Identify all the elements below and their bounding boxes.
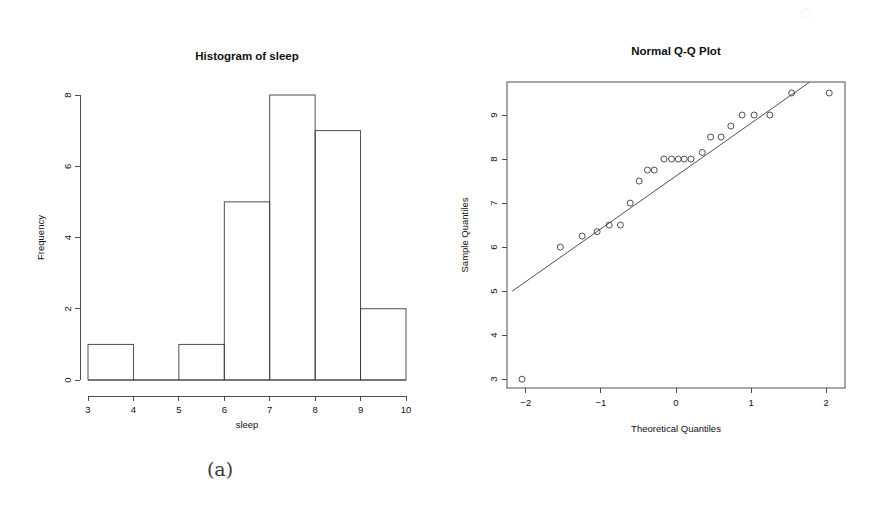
- histogram-bar-rect-4: [270, 95, 315, 380]
- qqplot-y-tick-label-4: 7: [489, 200, 500, 205]
- qqplot-y-tick-label-5: 8: [489, 156, 500, 161]
- panel-qqplot: Normal Q-Q Plot3456789−2−1012Theoretical…: [444, 0, 888, 508]
- panel-histogram: Histogram of sleep02468345678910sleepFre…: [0, 0, 444, 508]
- histogram-x-tick-label-7: 10: [401, 404, 412, 415]
- qqplot-y-tick-label-3: 6: [489, 244, 500, 249]
- qqplot-box: [507, 82, 845, 388]
- histogram-y-tick-label-3: 6: [62, 164, 73, 169]
- histogram-x-tick-label-2: 5: [176, 404, 181, 415]
- histogram-bar-rect-6: [361, 309, 406, 380]
- histogram-x-tick-label-3: 6: [222, 404, 227, 415]
- qqplot-y-tick-label-2: 5: [489, 288, 500, 293]
- qqplot-x-tick-label-4: 2: [824, 397, 829, 408]
- histogram-bar-rect-5: [315, 131, 360, 380]
- qqplot-point-16: [708, 134, 714, 140]
- qqplot-title: Normal Q-Q Plot: [631, 45, 721, 57]
- histogram-x-tick-label-5: 8: [312, 404, 317, 415]
- qqplot-point-13: [681, 156, 687, 162]
- qqplot-point-10: [661, 156, 667, 162]
- qqplot-point-9: [651, 167, 657, 173]
- qqplot-point-18: [728, 123, 734, 129]
- histogram-y-tick-label-1: 2: [62, 306, 73, 311]
- histogram-y-tick-label-0: 0: [62, 377, 73, 382]
- qqplot-point-8: [644, 167, 650, 173]
- normal-qq-plot-chart: Normal Q-Q Plot3456789−2−1012Theoretical…: [444, 0, 888, 450]
- histogram-bar-5-6: [179, 344, 224, 380]
- qqplot-x-tick-label-2: 0: [673, 397, 678, 408]
- qqplot-point-5: [617, 222, 623, 228]
- histogram-bar-8-9: [315, 131, 360, 380]
- histogram-y-tick-label-4: 8: [62, 92, 73, 97]
- qqplot-point-6: [627, 200, 633, 206]
- qqplot-point-19: [739, 112, 745, 118]
- qqplot-point-17: [718, 134, 724, 140]
- histogram-bar-7-8: [270, 95, 315, 380]
- histogram-x-tick-label-6: 9: [358, 404, 363, 415]
- histogram-bar-9-10: [361, 309, 406, 380]
- qqplot-y-tick-label-0: 3: [489, 377, 500, 382]
- qqplot-point-12: [675, 156, 681, 162]
- qqplot-point-15: [699, 149, 705, 155]
- qqplot-y-tick-label-1: 4: [489, 333, 500, 338]
- qqplot-point-0: [519, 376, 525, 382]
- qqplot-point-2: [579, 233, 585, 239]
- qqplot-point-7: [636, 178, 642, 184]
- qqplot-y-axis-label: Sample Quantiles: [459, 197, 470, 272]
- histogram-bar-rect-2: [179, 344, 224, 380]
- subfigure-caption-a: (a): [190, 458, 250, 480]
- qqplot-reference-line-group: [512, 82, 809, 291]
- qq-reference-line: [512, 82, 809, 291]
- histogram-x-axis-label: sleep: [236, 419, 259, 430]
- histogram-of-sleep-chart: Histogram of sleep02468345678910sleepFre…: [0, 0, 444, 450]
- histogram-x-tick-label-1: 4: [131, 404, 136, 415]
- qqplot-y-tick-label-6: 9: [489, 112, 500, 117]
- qqplot-point-1: [557, 244, 563, 250]
- qqplot-point-21: [767, 112, 773, 118]
- histogram-bar-rect-3: [224, 202, 269, 380]
- qqplot-x-axis-label: Theoretical Quantiles: [631, 423, 721, 434]
- qqplot-point-20: [751, 112, 757, 118]
- histogram-bar-rect-0: [88, 344, 133, 380]
- qqplot-points-group: [519, 90, 832, 382]
- histogram-bar-3-4: [88, 344, 133, 380]
- histogram-x-tick-label-0: 3: [85, 404, 90, 415]
- qqplot-x-tick-label-0: −2: [520, 397, 531, 408]
- histogram-y-tick-label-2: 4: [62, 235, 73, 240]
- qqplot-point-14: [688, 156, 694, 162]
- qqplot-x-tick-label-3: 1: [748, 397, 753, 408]
- qqplot-x-tick-label-1: −1: [595, 397, 606, 408]
- qqplot-point-23: [826, 90, 832, 96]
- qqplot-point-11: [668, 156, 674, 162]
- histogram-y-axis-label: Frequency: [35, 215, 46, 260]
- histogram-bar-6-7: [224, 202, 269, 380]
- histogram-x-tick-label-4: 7: [267, 404, 272, 415]
- histogram-title: Histogram of sleep: [195, 50, 299, 62]
- figure-root: Histogram of sleep02468345678910sleepFre…: [0, 0, 888, 508]
